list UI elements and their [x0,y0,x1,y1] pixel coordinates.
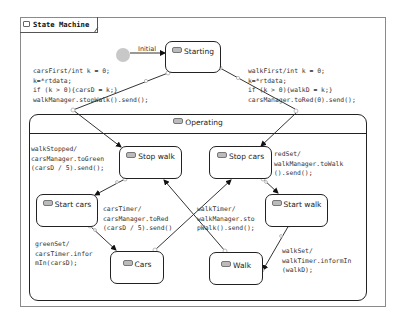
state-icon [172,47,182,53]
state-walk[interactable]: Walk [209,252,263,285]
transition-label-walk-first: walkFirst/int k = 0; k=*rtdata; if (k > … [248,67,356,105]
initial-transition-label: Initial [138,45,156,53]
state-cars[interactable]: Cars [110,251,164,284]
initial-pseudostate [116,48,130,62]
transition-label-red-set: redSet/ walkManager.toWalk ().send(); [274,150,343,179]
transition-label-walk-set: walkSet/ walkTimer.informIn (walkD); [282,247,351,276]
state-icon [43,200,53,206]
transition-label-walk-timer: walkTimer/ walkManager.sto pWalk().send(… [197,205,255,234]
operating-divider [30,133,366,134]
state-icon [217,152,227,158]
state-icon [272,200,282,206]
state-start-walk[interactable]: Start walk [265,194,328,227]
transition-label-cars-timer: carsTimer/ carsManager.toRed (carsD / 5)… [103,205,172,234]
state-start-cars[interactable]: Start cars [36,194,98,227]
state-icon [173,118,183,124]
transition-label-green-set: greenSet/ carsTimer.infor mIn(carsD); [35,240,93,269]
state-icon [123,260,133,266]
state-icon [126,152,136,158]
state-stop-cars[interactable]: Stop cars [209,146,272,179]
state-stop-walk[interactable]: Stop walk [119,146,182,179]
state-starting[interactable]: Starting [165,41,221,73]
transition-label-cars-first: carsFirst/int k = 0; k=*rtdata; if (k > … [33,67,148,105]
state-icon [221,261,231,267]
transition-label-walk-stopped: walkStopped/ carsManager.toGreen (carsD … [31,145,104,174]
